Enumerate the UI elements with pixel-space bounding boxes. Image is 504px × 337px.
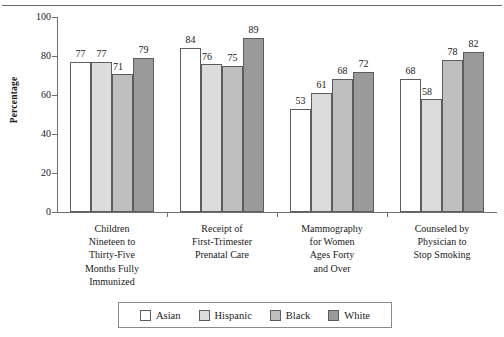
- bar-value-label: 75: [218, 53, 247, 63]
- bar: [463, 52, 484, 212]
- bar-value-label: 77: [87, 49, 116, 59]
- y-axis-tick-label: 80: [13, 51, 51, 61]
- legend-label: White: [344, 310, 370, 321]
- category-label-line: Months Fully: [44, 262, 180, 275]
- category-label-line: Immunized: [44, 275, 180, 288]
- bar-value-label: 68: [396, 66, 425, 76]
- y-axis-tick-label: 20: [13, 168, 51, 178]
- bar-value-label: 58: [422, 87, 443, 97]
- legend-swatch-icon: [328, 310, 339, 321]
- bar: [353, 72, 374, 212]
- chart-legend: AsianHispanicBlackWhite: [118, 302, 392, 328]
- bar-value-label: 61: [307, 80, 336, 90]
- top-rule-divider: [2, 5, 502, 6]
- y-axis-tick-label: 40: [13, 129, 51, 139]
- bar: [180, 48, 201, 212]
- bar: [201, 64, 222, 212]
- bar: [70, 62, 91, 212]
- bar-chart-figure: Percentage 020406080100 7777717984767589…: [0, 0, 504, 337]
- bar: [243, 38, 264, 212]
- legend-item[interactable]: Black: [270, 310, 311, 321]
- bar: [421, 99, 442, 212]
- bar-value-label: 71: [113, 62, 134, 72]
- x-axis-tick: [387, 212, 388, 217]
- bar-value-label: 53: [286, 96, 315, 106]
- bar-value-label: 72: [349, 59, 378, 69]
- y-axis-tick: [52, 17, 57, 18]
- bar: [91, 62, 112, 212]
- y-axis-tick: [52, 173, 57, 174]
- legend-label: Asian: [156, 310, 181, 321]
- bar: [222, 66, 243, 212]
- legend-swatch-icon: [270, 310, 281, 321]
- y-axis-title: Percentage: [9, 60, 19, 140]
- bar: [332, 79, 353, 212]
- bar-value-label: 79: [129, 45, 158, 55]
- y-axis-tick-label: 0: [13, 207, 51, 217]
- bar-value-label: 84: [176, 35, 205, 45]
- bar: [311, 93, 332, 212]
- x-axis-tick: [167, 212, 168, 217]
- y-axis-line: [57, 17, 58, 212]
- legend-label: Black: [286, 310, 311, 321]
- legend-item[interactable]: Asian: [140, 310, 181, 321]
- category-label: Counseled byPhysician toStop Smoking: [374, 222, 504, 262]
- bar: [290, 109, 311, 212]
- bar: [133, 58, 154, 212]
- legend-item[interactable]: Hispanic: [199, 310, 252, 321]
- legend-swatch-icon: [199, 310, 210, 321]
- y-axis-tick: [52, 56, 57, 57]
- legend-label: Hispanic: [215, 310, 252, 321]
- y-axis-tick-label: 100: [13, 12, 51, 22]
- y-axis-tick: [52, 134, 57, 135]
- category-label-line: Counseled by: [374, 222, 504, 235]
- category-label-line: Physician to: [374, 235, 504, 248]
- x-axis-tick: [277, 212, 278, 217]
- y-axis-tick: [52, 95, 57, 96]
- y-axis-tick: [52, 212, 57, 213]
- legend-item[interactable]: White: [328, 310, 370, 321]
- category-label-line: and Over: [264, 262, 400, 275]
- category-label-line: Stop Smoking: [374, 248, 504, 261]
- legend-swatch-icon: [140, 310, 151, 321]
- bar: [112, 74, 133, 212]
- y-axis-tick-label: 60: [13, 90, 51, 100]
- bar-value-label: 89: [239, 25, 268, 35]
- bar: [442, 60, 463, 212]
- bar-value-label: 82: [459, 39, 488, 49]
- plot-area: 020406080100 777771798476758953616872685…: [57, 17, 497, 212]
- bar: [400, 79, 421, 212]
